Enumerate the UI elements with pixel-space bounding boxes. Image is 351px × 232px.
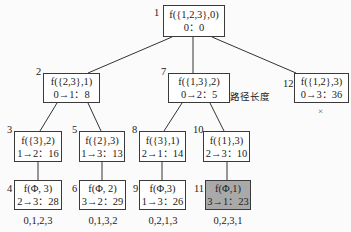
tree-node-12: f({1,2},3) 0→3：36 — [294, 73, 349, 103]
node-index: 10 — [193, 124, 204, 135]
node-index: 9 — [133, 183, 138, 194]
search-tree-diagram: 1 f({1,2,3},0) 0：0 2 f({2,3},1) 0→1：8 7 … — [0, 0, 351, 232]
node-path-length: 0→2：5 — [181, 88, 217, 101]
node-path-length: 0：0 — [184, 21, 205, 34]
node-path-length: 0→3：36 — [301, 88, 343, 101]
node-index: 1 — [154, 7, 159, 18]
node-function: f(Φ, 2) — [88, 182, 117, 195]
node-function: f(Φ,1) — [215, 182, 241, 195]
node-path-length: 1→3：13 — [81, 147, 123, 160]
edge-7-10 — [210, 103, 224, 131]
tree-node-4: f(Φ, 3) 2→3：28 — [14, 180, 62, 210]
node-function: f({1,2},3) — [301, 75, 343, 88]
node-path-length: 3→2：29 — [82, 195, 124, 208]
node-function: f(Φ, 3) — [24, 182, 53, 195]
node-index: 8 — [132, 124, 137, 135]
tree-node-5: f({2},3) 1→3：13 — [79, 131, 125, 162]
tree-node-9: f(Φ,3) 1→3：26 — [139, 180, 186, 210]
edge-2-5 — [88, 103, 101, 131]
pruned-marker: × — [318, 106, 323, 116]
node-function: f({3},2) — [21, 134, 55, 147]
node-function: f({3},1) — [146, 134, 180, 147]
route-sequence: 0,1,2,3 — [8, 215, 68, 226]
node-function: f({2,3},1) — [51, 75, 93, 88]
node-function: f({1,2,3},0) — [169, 8, 218, 21]
node-path-length: 1→3：26 — [142, 195, 184, 208]
route-sequence: 0,2,3,1 — [198, 215, 258, 226]
tree-node-2: f({2,3},1) 0→1：8 — [43, 73, 100, 103]
tree-node-7: f({1,3},2) 0→2：5 — [168, 73, 230, 103]
node-path-length: 1→2：16 — [17, 147, 59, 160]
edge-1-12 — [212, 37, 296, 73]
node-function: f(Φ,3) — [149, 182, 175, 195]
node-path-length: 2→3：28 — [17, 195, 59, 208]
tree-node-3: f({3},2) 1→2：16 — [14, 131, 62, 162]
edge-2-3 — [40, 103, 57, 131]
node-path-length: 2→3：10 — [206, 147, 248, 160]
node-index: 6 — [72, 183, 77, 194]
edge-7-8 — [164, 103, 182, 131]
route-sequence: 0,1,3,2 — [73, 215, 133, 226]
node-path-length: 0→1：8 — [53, 88, 89, 101]
tree-node-1: f({1,2,3},0) 0：0 — [163, 5, 225, 37]
tree-node-6: f(Φ, 2) 3→2：29 — [79, 180, 126, 210]
node-function: f({1,3},2) — [178, 75, 220, 88]
node-index: 11 — [194, 183, 204, 194]
node-index: 7 — [161, 66, 166, 77]
node-function: f({2},3) — [85, 134, 119, 147]
edge-1-2 — [88, 37, 172, 73]
node-path-length: 3→1：23 — [207, 195, 249, 208]
node-index: 5 — [72, 124, 77, 135]
route-sequence: 0,2,1,3 — [133, 215, 193, 226]
node-path-length: 2→1：14 — [142, 147, 184, 160]
tree-node-10: f({1},3) 2→3：10 — [203, 131, 250, 162]
tree-node-8: f({3},1) 2→1：14 — [139, 131, 186, 162]
tree-node-11-optimal: f(Φ,1) 3→1：23 — [205, 180, 251, 210]
node-function: f({1},3) — [210, 134, 244, 147]
node-index: 12 — [283, 78, 294, 89]
node-index: 4 — [7, 183, 12, 194]
path-length-annotation: 路径长度 — [230, 89, 270, 103]
node-index: 3 — [7, 124, 12, 135]
node-index: 2 — [36, 66, 41, 77]
